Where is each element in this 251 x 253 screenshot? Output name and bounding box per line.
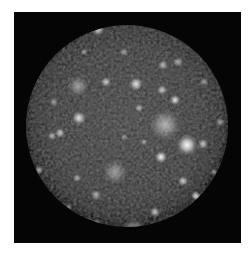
bright-crater <box>200 78 209 87</box>
bright-crater <box>216 118 225 127</box>
bright-crater <box>129 77 143 91</box>
moon-image <box>14 12 241 243</box>
bright-crater <box>150 207 161 218</box>
bright-crater <box>158 60 169 71</box>
bright-crater <box>140 138 147 145</box>
bright-crater <box>157 85 168 96</box>
bright-crater <box>176 134 198 156</box>
bright-crater <box>80 48 87 55</box>
bright-crater <box>120 48 129 57</box>
bright-crater <box>67 75 89 97</box>
bright-crater <box>178 176 189 187</box>
bright-crater <box>102 159 127 184</box>
bright-crater <box>120 133 127 140</box>
image-frame <box>14 12 241 243</box>
bright-crater <box>155 151 168 164</box>
bright-crater <box>73 174 82 183</box>
bright-crater <box>198 139 209 150</box>
bright-crater <box>72 111 86 125</box>
bright-crater <box>101 77 112 88</box>
bright-crater <box>173 57 184 68</box>
bright-crater <box>135 104 144 113</box>
bright-crater <box>91 190 102 201</box>
bright-crater <box>48 132 57 141</box>
bright-crater <box>149 109 181 141</box>
bright-crater <box>170 95 181 106</box>
bright-crater <box>50 98 59 107</box>
